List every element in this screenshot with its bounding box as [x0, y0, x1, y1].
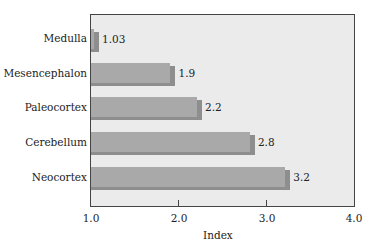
category-label: Cerebellum	[25, 136, 87, 148]
bar-face	[91, 29, 94, 49]
x-tick	[266, 200, 267, 207]
category-label: Medulla	[44, 32, 87, 44]
category-label: Neocortex	[32, 171, 87, 183]
bar-face	[91, 63, 170, 83]
value-label: 3.2	[293, 171, 310, 183]
x-tick-label: 3.0	[259, 212, 276, 224]
category-label: Paleocortex	[25, 101, 87, 113]
value-label: 1.9	[178, 67, 195, 79]
x-tick-label: 1.0	[83, 212, 100, 224]
category-label: Mesencephalon	[3, 67, 87, 79]
x-tick	[90, 200, 91, 207]
value-label: 1.03	[102, 33, 125, 45]
bar-face	[91, 132, 250, 152]
value-label: 2.8	[258, 136, 275, 148]
value-label: 2.2	[205, 101, 222, 113]
x-axis-label: Index	[203, 229, 233, 241]
bar-face	[91, 97, 197, 117]
x-tick-label: 2.0	[171, 212, 188, 224]
bar-face	[91, 167, 285, 187]
x-tick	[178, 200, 179, 207]
x-tick-label: 4.0	[346, 212, 363, 224]
